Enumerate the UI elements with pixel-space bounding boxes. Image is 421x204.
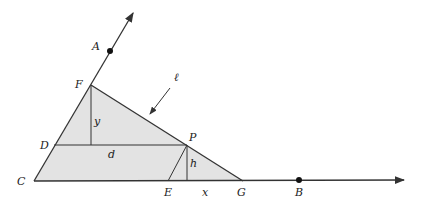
label-line-l: ℓ xyxy=(174,71,179,84)
label-c: C xyxy=(17,175,26,188)
label-h: h xyxy=(190,157,197,170)
label-d: D xyxy=(39,139,49,152)
label-p: P xyxy=(188,131,197,144)
label-d-segment: d xyxy=(108,148,115,161)
label-f: F xyxy=(74,78,83,91)
line-l-pointer xyxy=(150,88,170,114)
label-a: A xyxy=(91,40,100,53)
label-g: G xyxy=(237,186,246,199)
label-b: B xyxy=(294,186,303,199)
shaded-triangle-cfg xyxy=(34,85,243,181)
geometry-diagram: A F D C P E G B y d h x ℓ xyxy=(0,0,421,204)
label-e: E xyxy=(163,186,172,199)
label-y: y xyxy=(93,115,101,128)
point-a xyxy=(107,48,113,54)
point-b xyxy=(296,177,302,183)
label-x: x xyxy=(202,186,209,199)
